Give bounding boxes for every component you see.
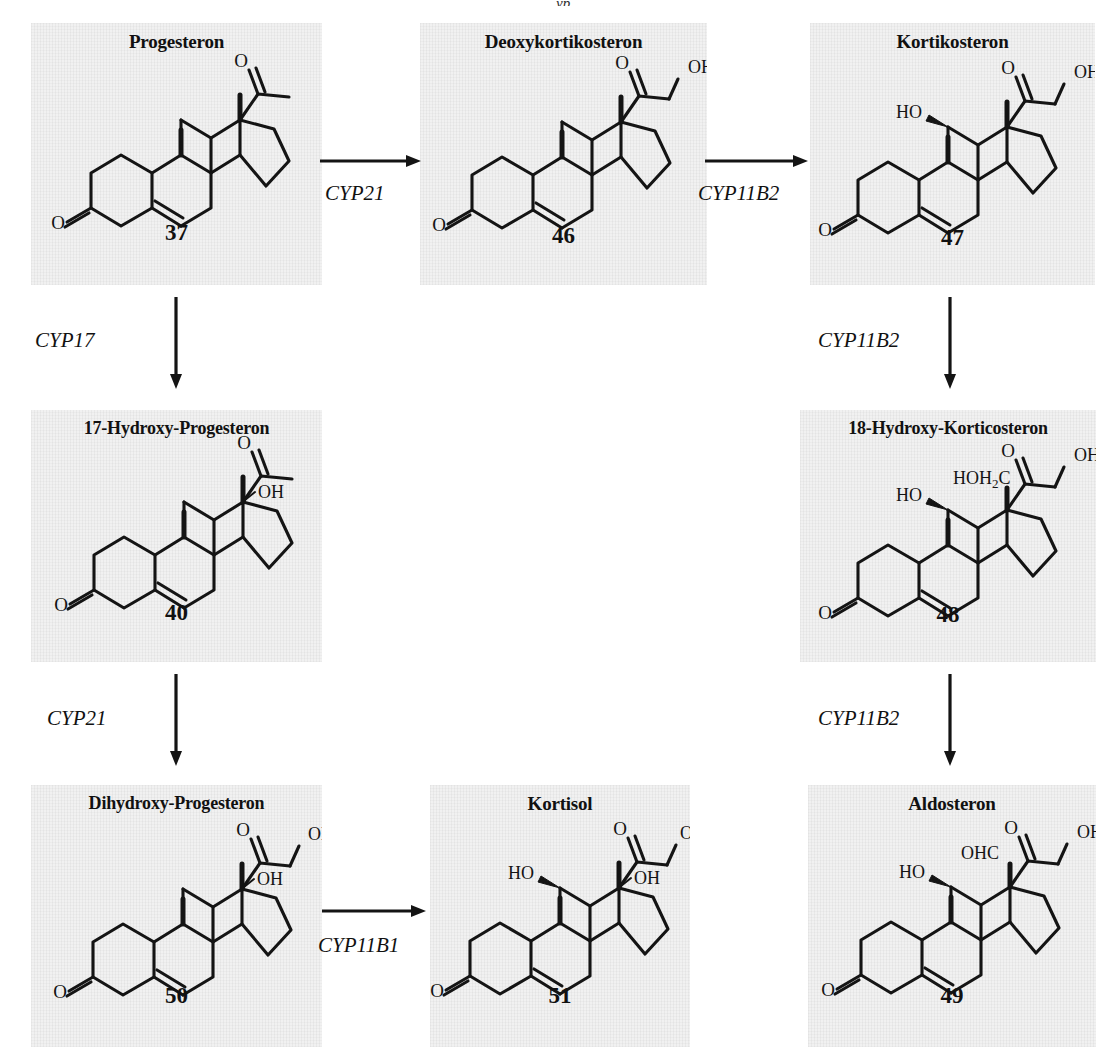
svg-text:O: O bbox=[613, 818, 627, 839]
panel-number: 49 bbox=[808, 983, 1096, 1009]
panel-number: 48 bbox=[800, 602, 1096, 628]
svg-text:HO: HO bbox=[508, 863, 534, 883]
arrow-progesteron-to-deoxykortikosteron bbox=[318, 153, 423, 169]
svg-text:HO: HO bbox=[896, 485, 922, 505]
svg-text:OHC: OHC bbox=[961, 843, 999, 863]
panel-kortisol: Kortisol O O OH OH bbox=[430, 785, 690, 1047]
panel-title: 18-Hydroxy-Korticosteron bbox=[800, 418, 1096, 439]
panel-number: 51 bbox=[430, 983, 690, 1009]
svg-text:HOH2C: HOH2C bbox=[953, 468, 1011, 491]
svg-text:HO: HO bbox=[899, 862, 925, 882]
arrow-deoxykortikosteron-to-kortikosteron bbox=[703, 153, 810, 169]
arrow-18-hydroxy-korticosteron-to-aldosteron bbox=[942, 672, 958, 768]
panel-18-hydroxy-korticosteron: 18-Hydroxy-Korticosteron O O bbox=[800, 410, 1096, 662]
arrow-label-cyp11b2-right-lower: CYP11B2 bbox=[818, 706, 899, 731]
panel-number: 37 bbox=[31, 220, 322, 246]
arrow-progesteron-to-17-hydroxy-progesteron bbox=[168, 295, 184, 391]
clipped-top-text: yp bbox=[556, 0, 596, 6]
panel-number: 40 bbox=[31, 600, 322, 626]
svg-text:OH: OH bbox=[1074, 62, 1095, 82]
svg-text:O: O bbox=[234, 50, 248, 71]
svg-text:O: O bbox=[1001, 440, 1015, 461]
panel-number: 50 bbox=[31, 983, 322, 1009]
panel-deoxykortikosteron: Deoxykortikosteron O O OH bbox=[420, 23, 707, 285]
panel-title: Progesteron bbox=[31, 31, 322, 53]
svg-text:O: O bbox=[1001, 57, 1015, 78]
panel-number: 47 bbox=[810, 225, 1095, 251]
svg-text:OH: OH bbox=[634, 868, 660, 888]
arrow-label-cyp11b1: CYP11B1 bbox=[318, 933, 399, 958]
panel-title: Deoxykortikosteron bbox=[420, 31, 707, 53]
svg-text:OH: OH bbox=[1077, 822, 1096, 842]
panel-kortikosteron: Kortikosteron O O OH HO bbox=[810, 23, 1095, 285]
panel-title: Kortikosteron bbox=[810, 31, 1095, 53]
panel-title: Dihydroxy-Progesteron bbox=[31, 793, 322, 814]
arrow-label-cyp17: CYP17 bbox=[35, 328, 95, 353]
svg-text:OH: OH bbox=[308, 824, 322, 844]
arrow-label-cyp11b2-top: CYP11B2 bbox=[698, 181, 779, 206]
panel-title: 17-Hydroxy-Progesteron bbox=[31, 418, 322, 439]
svg-text:O: O bbox=[236, 819, 250, 840]
svg-text:HO: HO bbox=[896, 102, 922, 122]
svg-text:OH: OH bbox=[688, 57, 707, 77]
arrow-label-cyp21-lower: CYP21 bbox=[47, 706, 107, 731]
arrow-label-cyp21-top: CYP21 bbox=[325, 181, 385, 206]
panel-aldosteron: Aldosteron O O OH HO OHC bbox=[808, 785, 1096, 1047]
svg-text:O: O bbox=[615, 52, 629, 73]
panel-title: Kortisol bbox=[430, 793, 690, 815]
svg-text:O: O bbox=[1004, 817, 1018, 838]
svg-text:OH: OH bbox=[1074, 445, 1096, 465]
panel-progesteron: Progesteron bbox=[31, 23, 322, 285]
arrow-label-cyp11b2-right-upper: CYP11B2 bbox=[818, 328, 899, 353]
svg-text:OH: OH bbox=[258, 482, 284, 502]
panel-dihydroxy-progesteron: Dihydroxy-Progesteron O O OH bbox=[31, 785, 322, 1047]
panel-title: Aldosteron bbox=[808, 793, 1096, 815]
arrow-kortikosteron-to-18-hydroxy-korticosteron bbox=[942, 295, 958, 391]
arrow-dihydroxy-progesteron-to-kortisol bbox=[320, 903, 428, 919]
panel-number: 46 bbox=[420, 223, 707, 249]
panel-17-hydroxy-progesteron: 17-Hydroxy-Progesteron O O OH bbox=[31, 410, 322, 662]
arrow-17-hydroxy-progesteron-to-dihydroxy-progesteron bbox=[168, 672, 184, 768]
svg-text:OH: OH bbox=[257, 869, 283, 889]
svg-text:OH: OH bbox=[680, 823, 690, 843]
